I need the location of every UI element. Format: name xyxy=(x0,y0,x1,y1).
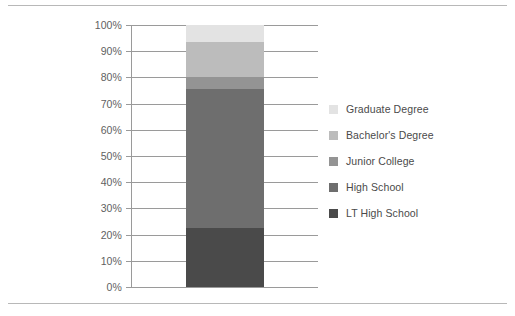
y-axis-tick-label: 30% xyxy=(101,202,122,214)
y-axis-tick xyxy=(126,182,131,183)
legend-item-label: Junior College xyxy=(346,155,415,167)
legend-item-label: Bachelor's Degree xyxy=(346,129,434,141)
bottom-divider-rule xyxy=(8,303,507,304)
bar-segment[interactable] xyxy=(186,228,264,287)
legend-item[interactable]: Graduate Degree xyxy=(329,96,504,122)
legend-swatch-icon xyxy=(329,157,338,166)
bar-segment[interactable] xyxy=(186,42,264,77)
legend-swatch-icon xyxy=(329,183,338,192)
y-axis-tick xyxy=(126,261,131,262)
y-axis-tick-label: 50% xyxy=(101,150,122,162)
bar-segment[interactable] xyxy=(186,77,264,89)
y-axis-tick xyxy=(126,287,131,288)
y-axis-tick-label: 60% xyxy=(101,124,122,136)
y-axis-tick-label: 70% xyxy=(101,98,122,110)
y-axis-tick xyxy=(126,51,131,52)
y-axis-tick xyxy=(126,130,131,131)
y-axis-tick xyxy=(126,208,131,209)
y-axis-tick-label: 90% xyxy=(101,45,122,57)
legend-item[interactable]: Junior College xyxy=(329,148,504,174)
stacked-bar-column[interactable] xyxy=(186,25,264,287)
y-axis-tick-label: 10% xyxy=(101,255,122,267)
y-axis-tick xyxy=(126,25,131,26)
chart-legend: Graduate DegreeBachelor's DegreeJunior C… xyxy=(329,96,504,226)
legend-item-label: High School xyxy=(346,181,404,193)
legend-item[interactable]: LT High School xyxy=(329,200,504,226)
y-axis-tick xyxy=(126,156,131,157)
y-axis-tick-label: 80% xyxy=(101,71,122,83)
bar-segment[interactable] xyxy=(186,89,264,228)
legend-swatch-icon xyxy=(329,209,338,218)
legend-item-label: LT High School xyxy=(346,207,418,219)
y-axis-tick xyxy=(126,235,131,236)
y-axis-tick-label: 0% xyxy=(107,281,122,293)
legend-item[interactable]: High School xyxy=(329,174,504,200)
gridline xyxy=(131,287,318,288)
legend-item[interactable]: Bachelor's Degree xyxy=(329,122,504,148)
y-axis-tick-label: 100% xyxy=(95,19,122,31)
legend-swatch-icon xyxy=(329,105,338,114)
y-axis-tick-label: 20% xyxy=(101,229,122,241)
chart-figure: 100%90%80%70%60%50%40%30%20%10%0% Gradua… xyxy=(0,0,515,316)
y-axis-tick xyxy=(126,77,131,78)
legend-swatch-icon xyxy=(329,131,338,140)
y-axis-tick xyxy=(126,104,131,105)
y-axis-tick-label: 40% xyxy=(101,176,122,188)
top-divider-rule xyxy=(8,5,507,6)
bar-segment[interactable] xyxy=(186,25,264,42)
legend-item-label: Graduate Degree xyxy=(346,103,429,115)
plot-area: 100%90%80%70%60%50%40%30%20%10%0% xyxy=(131,25,318,287)
